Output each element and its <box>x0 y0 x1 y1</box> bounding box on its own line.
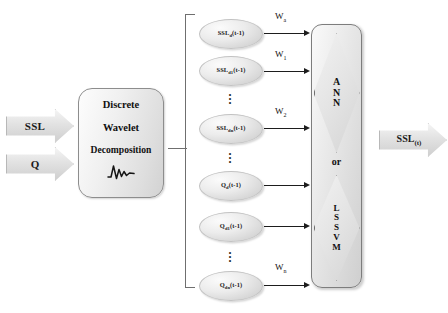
node-q-d1-label: Qd1(t-1) <box>220 222 242 231</box>
diagram-canvas: SSL Q Discrete Wavelet Decomposition SSL… <box>0 0 448 313</box>
node-ssl-dn: SSLdn(t-1) <box>199 114 263 144</box>
output-arrow-ssl-t: SSL(t) <box>379 123 447 157</box>
ann-letter: N <box>333 98 340 109</box>
connector-arrow-ssl-d <box>264 29 310 37</box>
input-arrow-ssl: SSL <box>6 109 74 143</box>
ann-letters: A N N <box>333 77 340 109</box>
weight-label-w-n: Wn <box>275 262 287 274</box>
node-q-d-label: Qd(t-1) <box>221 181 241 190</box>
node-q-d: Qd(t-1) <box>199 171 263 201</box>
ann-diamond: A N N <box>314 33 360 153</box>
weight-label-w-1: W1 <box>275 49 287 61</box>
ellipsis-group-1: . . . <box>225 90 235 102</box>
or-label: or <box>312 156 361 167</box>
connector-arrow-ssl-dn <box>264 124 310 132</box>
lssvm-letter: M <box>332 243 341 253</box>
connector-arrow-ssl-d1 <box>264 67 310 75</box>
weight-label-w-2: W2 <box>275 106 287 118</box>
discrete-wavelet-decomposition-box: Discrete Wavelet Decomposition <box>78 88 164 198</box>
wavelet-squiggle-icon <box>106 163 136 184</box>
node-q-dn: Qdn(t-1) <box>199 271 263 301</box>
weight-label-w-a: Wa <box>275 11 286 23</box>
ellipsis-group-2: . . . <box>225 149 235 161</box>
square-bracket-open <box>185 14 195 288</box>
node-ssl-d1: SSLd1(t-1) <box>199 56 263 86</box>
input-arrow-ssl-label: SSL <box>25 120 45 132</box>
connector-arrow-q-d <box>264 181 310 189</box>
dwd-line-1: Discrete <box>103 100 140 111</box>
connector-arrow-q-d1 <box>264 222 310 230</box>
connector-arrow-q-dn <box>264 281 310 289</box>
node-q-d1: Qd1(t-1) <box>199 212 263 242</box>
lssvm-diamond: L S S V M <box>314 175 360 281</box>
ellipsis-dot: . <box>225 157 235 161</box>
node-q-dn-label: Qdn(t-1) <box>220 281 243 290</box>
dwd-line-2: Wavelet <box>103 123 139 134</box>
input-arrow-q: Q <box>6 147 74 181</box>
ellipsis-dot: . <box>225 256 235 260</box>
node-ssl-d-label: SSLd(t-1) <box>218 29 245 38</box>
output-arrow-label: SSL(t) <box>397 133 422 147</box>
node-ssl-d: SSLd(t-1) <box>199 19 263 49</box>
input-arrow-q-label: Q <box>31 158 40 170</box>
ellipsis-group-3: . . . <box>225 248 235 260</box>
dwd-line-3: Decomposition <box>91 145 152 155</box>
node-ssl-d1-label: SSLd1(t-1) <box>217 66 246 75</box>
ellipsis-dot: . <box>225 98 235 102</box>
model-box: A N N or L S S V M <box>311 24 362 288</box>
ann-letter: A <box>333 77 340 88</box>
node-ssl-dn-label: SSLdn(t-1) <box>216 124 245 133</box>
lssvm-letters: L S S V M <box>332 204 341 253</box>
